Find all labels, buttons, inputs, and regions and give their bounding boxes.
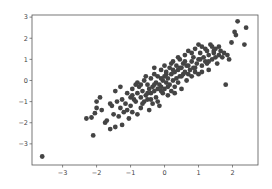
data-point <box>164 72 169 77</box>
data-point <box>166 93 171 98</box>
data-point <box>213 55 218 60</box>
data-point <box>149 97 154 102</box>
x-tick-label: −1 <box>126 169 136 177</box>
y-tick-label: −1 <box>18 98 28 106</box>
data-point <box>143 74 148 79</box>
data-point <box>220 55 225 60</box>
data-point <box>193 46 198 51</box>
x-tick-label: 0 <box>162 169 166 177</box>
data-point <box>94 99 99 104</box>
y-tick-label: 3 <box>24 13 28 21</box>
data-point <box>198 57 203 62</box>
y-tick-label: 1 <box>24 56 28 64</box>
data-point <box>115 99 120 104</box>
data-point <box>183 59 188 64</box>
data-point <box>111 112 116 117</box>
data-point <box>172 91 177 96</box>
data-point <box>113 125 118 130</box>
data-point <box>206 53 211 58</box>
data-point <box>130 93 135 98</box>
data-point <box>194 61 199 66</box>
data-point <box>157 103 162 108</box>
data-point <box>162 63 167 68</box>
data-point <box>234 33 239 38</box>
data-point <box>155 99 160 104</box>
data-point <box>152 82 157 87</box>
data-point <box>125 108 130 113</box>
data-point <box>108 101 113 106</box>
x-tick-label: −2 <box>92 169 102 177</box>
data-point <box>118 106 123 111</box>
data-point <box>227 57 232 62</box>
data-point <box>191 55 196 60</box>
data-point <box>118 84 123 89</box>
data-point <box>113 89 118 94</box>
data-point <box>193 70 198 75</box>
data-point <box>159 68 164 73</box>
data-point <box>91 133 96 138</box>
data-point <box>200 63 205 68</box>
data-point <box>93 111 98 116</box>
data-point <box>130 87 135 92</box>
data-point <box>159 76 164 81</box>
data-point <box>154 95 159 100</box>
data-point <box>84 116 89 121</box>
y-tick-label: 2 <box>24 35 28 43</box>
data-point <box>140 101 145 106</box>
y-tick-label: −2 <box>18 119 28 127</box>
data-point <box>191 65 196 70</box>
y-axis: 3210−1−2−3 <box>18 13 32 148</box>
data-point <box>177 65 182 70</box>
data-point <box>135 91 140 96</box>
data-point <box>235 19 240 24</box>
data-point <box>152 65 157 70</box>
data-point <box>198 51 203 56</box>
data-point <box>196 42 201 47</box>
data-point <box>184 63 189 68</box>
x-tick-label: 1 <box>196 169 200 177</box>
data-point <box>203 46 208 51</box>
data-point <box>116 114 121 119</box>
data-point <box>172 84 177 89</box>
data-point <box>142 78 147 83</box>
data-point <box>40 154 45 159</box>
data-point <box>171 68 176 73</box>
data-point <box>159 89 164 94</box>
data-point <box>150 101 155 106</box>
data-points <box>40 19 249 159</box>
data-point <box>128 103 133 108</box>
data-point <box>211 49 216 54</box>
data-point <box>217 44 222 49</box>
x-axis: −3−2−1012 <box>58 165 235 177</box>
data-point <box>138 95 143 100</box>
data-point <box>120 97 125 102</box>
data-point <box>98 95 103 100</box>
data-point <box>225 53 230 58</box>
data-point <box>223 82 228 87</box>
data-point <box>147 108 152 113</box>
y-tick-label: 0 <box>24 77 28 85</box>
data-point <box>135 112 140 117</box>
scatter-chart: −3−2−1012 3210−1−2−3 <box>0 0 272 189</box>
data-point <box>210 44 215 49</box>
data-point <box>179 87 184 92</box>
data-point <box>229 40 234 45</box>
data-point <box>94 106 99 111</box>
data-point <box>169 61 174 66</box>
data-point <box>123 101 128 106</box>
data-point <box>166 84 171 89</box>
x-tick-label: 2 <box>230 169 234 177</box>
data-point <box>242 42 247 47</box>
data-point <box>133 99 138 104</box>
y-tick-label: −3 <box>18 140 28 148</box>
data-point <box>104 118 109 123</box>
data-point <box>179 74 184 79</box>
data-point <box>120 123 125 128</box>
x-tick-label: −3 <box>58 169 68 177</box>
data-point <box>206 68 211 73</box>
data-point <box>183 53 188 58</box>
data-point <box>138 82 143 87</box>
data-point <box>125 91 130 96</box>
data-point <box>145 91 150 96</box>
data-point <box>126 116 131 121</box>
